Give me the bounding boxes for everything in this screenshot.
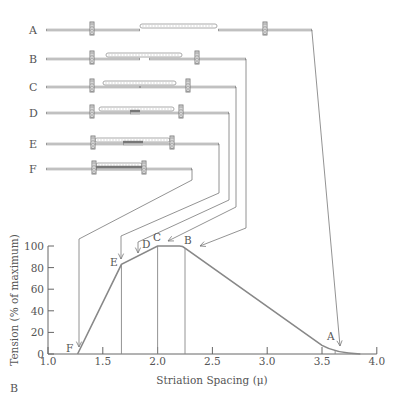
y-tick-label: 80: [31, 262, 44, 274]
point-labels: ABCDEF: [66, 231, 335, 354]
x-tick-label: 1.0: [40, 355, 57, 367]
x-tick-label: 1.5: [94, 355, 111, 367]
y-tick-label: 40: [31, 305, 44, 317]
thick-filament: [103, 81, 176, 85]
point-label-e: E: [110, 256, 118, 268]
length-tension-plot: 0204060801001.01.52.02.53.03.54.0 ABCDEF…: [8, 231, 385, 386]
z-disc: [186, 79, 190, 92]
z-disc: [142, 161, 146, 174]
point-label-d: D: [142, 238, 150, 250]
z-disc: [195, 51, 199, 64]
sarcomere-row: B: [29, 51, 246, 66]
sarcomere-row: F: [29, 161, 192, 176]
x-tick-label: 3.0: [259, 355, 276, 367]
x-tick-label: 2.0: [149, 355, 166, 367]
z-disc: [92, 161, 96, 174]
z-disc: [90, 105, 94, 118]
x-tick-label: 4.0: [368, 355, 385, 367]
tension-line: [78, 246, 361, 354]
plot-axes: 0204060801001.01.52.02.53.03.54.0: [24, 240, 385, 367]
z-disc: [179, 105, 183, 118]
y-tick-label: 100: [24, 240, 44, 252]
row-label: B: [29, 53, 37, 66]
row-label: F: [29, 163, 37, 176]
z-disc: [91, 136, 95, 149]
thick-filament: [106, 53, 182, 57]
leader-line-e: [121, 144, 219, 259]
y-tick-label: 20: [31, 326, 44, 338]
sarcomere-row: E: [29, 136, 219, 151]
z-disc: [90, 22, 94, 35]
y-axis-title: Tension (% of maximum): [8, 234, 20, 366]
sarcomere-row: A: [28, 22, 312, 37]
point-label-f: F: [66, 342, 73, 354]
z-disc: [90, 51, 94, 64]
panel-label: B: [10, 382, 18, 395]
point-label-a: A: [326, 330, 335, 342]
row-label: A: [28, 24, 38, 37]
sarcomere-tension-figure: ABCDEF 0204060801001.01.52.02.53.03.54.0…: [0, 0, 402, 406]
point-label-c: C: [153, 231, 161, 243]
row-label: C: [29, 81, 37, 94]
sarcomere-row: C: [29, 79, 236, 94]
x-axis-title: Striation Spacing (μ): [156, 374, 267, 386]
row-label: E: [29, 138, 37, 151]
point-label-b: B: [184, 234, 192, 246]
z-disc: [170, 136, 174, 149]
tension-curve: [78, 246, 361, 354]
leader-line-a: [312, 30, 340, 346]
z-disc: [263, 22, 267, 35]
row-label: D: [29, 107, 38, 120]
thick-filament: [140, 24, 217, 28]
leader-arrows: [76, 30, 342, 347]
leader-line-c: [168, 87, 236, 241]
x-tick-label: 2.5: [204, 355, 221, 367]
sarcomere-diagrams: ABCDEF: [28, 22, 312, 176]
z-disc: [90, 79, 94, 92]
y-tick-label: 60: [31, 283, 44, 295]
sarcomere-row: D: [29, 105, 229, 120]
leader-line-d: [138, 113, 229, 253]
x-tick-label: 3.5: [314, 355, 331, 367]
